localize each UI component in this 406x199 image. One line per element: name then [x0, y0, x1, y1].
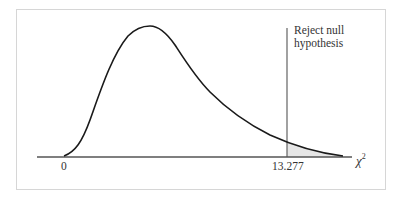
tick-label-critical: 13.277 — [272, 160, 304, 173]
tick-label-zero: 0 — [61, 160, 67, 173]
x-axis-label: χ2 — [356, 150, 366, 167]
reject-label-line2: hypothesis — [294, 37, 344, 50]
reject-label-line1: Reject null — [294, 24, 344, 37]
reject-null-label: Reject null hypothesis — [294, 24, 344, 50]
chi-exponent: 2 — [362, 152, 366, 161]
